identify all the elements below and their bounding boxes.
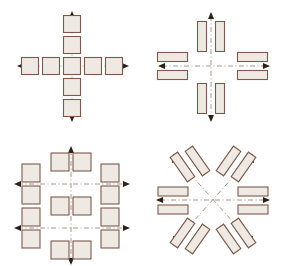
block-group <box>22 16 123 117</box>
axis-horizontal <box>158 63 270 69</box>
axis-vertical <box>208 12 214 122</box>
panel-cross-of-squares <box>0 0 141 133</box>
block-group <box>22 153 119 259</box>
panel-radial-bars-diagonal <box>142 133 283 266</box>
panel-paired-bars-orthogonal <box>142 0 283 133</box>
diagram-canvas <box>0 0 283 266</box>
block-group <box>158 22 268 114</box>
panel-grid-dual-axes <box>0 133 141 266</box>
